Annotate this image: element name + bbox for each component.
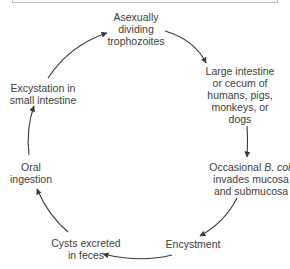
node-text: trophozoites xyxy=(107,35,164,47)
arrow-oral-ingestion-to-excystation xyxy=(28,106,34,155)
node-text: invades mucosa xyxy=(209,173,290,185)
node-text: and submucosa xyxy=(209,185,290,197)
node-text: Occasional B. coli xyxy=(209,161,290,173)
node-invasion: Occasional B. coli invades mucosa and su… xyxy=(209,161,290,197)
node-text: Encystment xyxy=(166,238,221,250)
node-text-prefix: Occasional xyxy=(209,161,264,173)
node-text: Cysts excreted xyxy=(51,237,120,249)
node-trophozoites: Asexually dividing trophozoites xyxy=(107,11,164,47)
node-oral-ingestion: Oral ingestion xyxy=(10,161,52,185)
node-text: Asexually xyxy=(107,11,164,23)
node-text: ingestion xyxy=(10,173,52,185)
node-text: or cecum of xyxy=(206,77,275,89)
node-text: dogs xyxy=(206,113,275,125)
node-text: in feces xyxy=(51,249,120,261)
node-text: Oral xyxy=(10,161,52,173)
arrow-cysts-to-oral-ingestion xyxy=(37,189,68,232)
node-text: small intestine xyxy=(10,94,77,106)
node-cysts-excreted: Cysts excreted in feces xyxy=(51,237,120,261)
arrow-large-intestine-to-invasion xyxy=(247,126,248,157)
node-text: humans, pigs, xyxy=(206,89,275,101)
node-excystation: Excystation in small intestine xyxy=(10,82,77,106)
arrow-excystation-to-trophozoites xyxy=(48,33,107,78)
node-text: dividing xyxy=(107,23,164,35)
node-text: monkeys, or xyxy=(206,101,275,113)
species-name: B. coli xyxy=(264,161,290,173)
arrow-trophozoites-to-large-intestine xyxy=(165,31,206,63)
arrow-invasion-to-encystment xyxy=(200,198,237,236)
node-encystment: Encystment xyxy=(166,238,221,250)
node-large-intestine: Large intestine or cecum of humans, pigs… xyxy=(206,65,275,125)
node-text: Excystation in xyxy=(10,82,77,94)
node-text: Large intestine xyxy=(206,65,275,77)
